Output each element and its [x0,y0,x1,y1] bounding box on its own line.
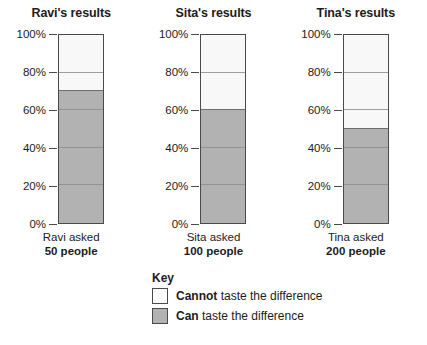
chart-footer-tina: Tina asked 200 people [285,230,427,258]
y-tick-60 [334,110,342,111]
legend-title: Key [152,271,382,285]
chart-footer-ravi: Ravi asked 50 people [0,230,142,258]
y-tick-label-60: 60% [308,104,331,116]
gridline-40 [344,147,388,148]
y-tick-label-100: 100% [159,28,188,40]
y-tick-40 [191,148,199,149]
gridline-80 [201,72,245,73]
bar-sita [200,34,246,224]
legend-label-can-emphasis: Can [176,309,199,323]
plot-area-ravi: 100% 80% 60% 40% 20% 0% [58,34,104,224]
bar-ravi [58,34,104,224]
gridline-80 [59,72,103,73]
y-tick-100 [49,34,57,35]
count-label-ravi: 50 people [0,244,142,258]
bar-segment-boundary-ravi [59,90,103,91]
chart-panel-tina: Tina's results 100% 80% 60% 40% 20% 0% [285,0,427,265]
y-tick-40 [49,148,57,149]
y-tick-label-20: 20% [23,180,46,192]
plot-area-tina: 100% 80% 60% 40% 20% 0% [343,34,389,224]
count-label-sita: 100 people [142,244,284,258]
gridline-60 [344,109,388,110]
chart-title-sita: Sita's results [142,6,284,20]
legend-label-cannot: Cannot taste the difference [176,289,323,303]
gridline-20 [59,184,103,185]
gridline-40 [59,147,103,148]
y-tick-100 [191,34,199,35]
chart-title-ravi: Ravi's results [0,6,142,20]
gridline-60 [59,109,103,110]
legend-label-cannot-rest: taste the difference [217,289,322,303]
chart-panel-ravi: Ravi's results 100% 80% 60% 40% 20% 0% [0,0,142,265]
legend-label-cannot-emphasis: Cannot [176,289,217,303]
asked-label-ravi: Ravi asked [0,230,142,244]
y-tick-label-80: 80% [23,66,46,78]
legend-swatch-cannot-icon [152,288,168,304]
y-tick-60 [49,110,57,111]
bar-tina [343,34,389,224]
count-label-tina: 200 people [285,244,427,258]
y-tick-label-40: 40% [23,142,46,154]
bar-segment-can-ravi [59,91,103,223]
y-tick-80 [334,72,342,73]
asked-label-tina: Tina asked [285,230,427,244]
legend-swatch-can-icon [152,308,168,324]
y-tick-label-100: 100% [17,28,46,40]
y-tick-20 [334,186,342,187]
asked-label-sita: Sita asked [142,230,284,244]
y-tick-label-60: 60% [165,104,188,116]
y-tick-label-100: 100% [301,28,330,40]
y-tick-label-20: 20% [308,180,331,192]
y-tick-label-80: 80% [165,66,188,78]
y-tick-0 [334,224,342,225]
chart-footer-sita: Sita asked 100 people [142,230,284,258]
legend-item-can: Can taste the difference [152,308,382,324]
bar-segment-can-tina [344,129,388,223]
chart-title-tina: Tina's results [285,6,427,20]
y-tick-20 [191,186,199,187]
y-tick-label-80: 80% [308,66,331,78]
y-tick-40 [334,148,342,149]
legend-label-can-rest: taste the difference [199,309,304,323]
y-tick-label-0: 0% [172,218,189,230]
y-tick-0 [191,224,199,225]
gridline-20 [201,184,245,185]
y-tick-80 [49,72,57,73]
y-tick-label-0: 0% [29,218,46,230]
gridline-20 [344,184,388,185]
legend-label-can: Can taste the difference [176,309,304,323]
y-tick-label-40: 40% [165,142,188,154]
chart-legend: Key Cannot taste the difference Can tast… [152,271,382,328]
chart-panel-sita: Sita's results 100% 80% 60% 40% 20% 0% [142,0,284,265]
y-tick-label-40: 40% [308,142,331,154]
plot-area-sita: 100% 80% 60% 40% 20% 0% [200,34,246,224]
gridline-40 [201,147,245,148]
legend-item-cannot: Cannot taste the difference [152,288,382,304]
y-tick-0 [49,224,57,225]
y-tick-60 [191,110,199,111]
y-tick-80 [191,72,199,73]
stacked-bar-chart-group: Ravi's results 100% 80% 60% 40% 20% 0% [0,0,427,265]
y-tick-label-20: 20% [165,180,188,192]
y-tick-label-60: 60% [23,104,46,116]
y-tick-20 [49,186,57,187]
bar-segment-can-sita [201,110,245,223]
y-tick-label-0: 0% [314,218,331,230]
bar-segment-boundary-sita [201,109,245,110]
gridline-80 [344,72,388,73]
y-tick-100 [334,34,342,35]
bar-segment-boundary-tina [344,128,388,129]
